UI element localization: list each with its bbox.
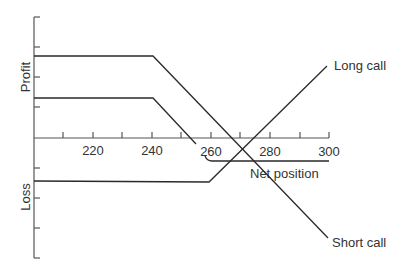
annotation-long-call: Long call: [334, 58, 386, 73]
payoff-chart: 220 240 260 280 300 Profit Loss Long cal…: [0, 0, 401, 273]
tick-label-280: 280: [259, 144, 281, 159]
series-short-call: [34, 56, 328, 238]
tick-label-240: 240: [141, 143, 163, 158]
annotation-net-position: Net position: [250, 166, 319, 181]
tick-label-220: 220: [82, 143, 104, 158]
annotation-short-call: Short call: [332, 235, 386, 250]
series-long-call: [34, 66, 327, 182]
series-net-position-upper: [34, 98, 196, 144]
y-label-profit: Profit: [18, 61, 33, 92]
x-axis: [34, 132, 329, 138]
y-label-loss: Loss: [18, 183, 33, 211]
tick-label-260: 260: [200, 144, 222, 159]
x-tick-labels: 220 240 260 280 300: [82, 143, 340, 159]
tick-label-300: 300: [318, 144, 340, 159]
